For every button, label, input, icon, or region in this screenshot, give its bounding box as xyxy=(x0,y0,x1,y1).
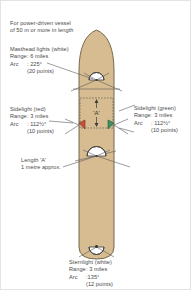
sidelight-red-ray-upper xyxy=(65,119,79,125)
sidelight-green-range-key: Range xyxy=(134,112,151,119)
sternlight-arc-row: Arc:135° xyxy=(69,274,113,281)
vessel-illustration: 'A' xyxy=(1,1,191,290)
sidelight-green-name: Sidelight (green) xyxy=(134,105,178,112)
masthead-lights-label: Masthead lights (white) Range: 6 miles A… xyxy=(10,46,69,75)
masthead-range-key: Range xyxy=(10,53,27,60)
hull-shape xyxy=(79,30,114,259)
length-a-line-1: Length 'A' xyxy=(21,157,61,164)
sidelight-red-range-row: Range: 3 miles xyxy=(10,113,54,120)
figure-title-line-2: of 50 m or more in length xyxy=(10,27,73,34)
sternlight-range-value: : 3 miles xyxy=(86,266,107,272)
sidelight-red-ray-lower xyxy=(65,125,79,134)
sidelight-red-arc-row: Arc: 112½° xyxy=(10,121,54,128)
sternlight-range-key: Range xyxy=(69,266,86,273)
masthead-arc-value: : 225° xyxy=(27,61,42,67)
masthead-aft-lamp-dot xyxy=(95,155,97,157)
masthead-arc-row: Arc: 225° xyxy=(10,61,69,68)
length-a-line-2: 1 metre approx. xyxy=(21,164,61,171)
length-a-text-label: Length 'A' 1 metre approx. xyxy=(21,157,61,172)
sidelight-red-points: (10 points) xyxy=(10,128,54,135)
masthead-range-value: : 6 miles xyxy=(27,53,48,59)
navigation-lights-diagram: 'A' xyxy=(0,0,191,290)
sidelight-green-leader-line xyxy=(119,105,135,111)
sidelight-red-arc-key: Arc xyxy=(10,121,27,128)
masthead-forward-lamp-dot xyxy=(95,79,97,81)
sidelight-green-range-row: Range: 3 miles xyxy=(134,112,178,119)
sternlight-arc-key: Arc xyxy=(69,274,86,281)
figure-title: For power-driven vessel of 50 m or more … xyxy=(10,20,73,35)
sternlight-name: Sternlight (white) xyxy=(69,259,113,266)
sternlight-range-row: Range: 3 miles xyxy=(69,266,113,273)
masthead-points: (20 points) xyxy=(10,68,69,75)
sternlight-arc-value: :135° xyxy=(86,274,99,280)
sidelight-green-label: Sidelight (green) Range: 3 miles Arc: 11… xyxy=(134,105,178,134)
sternlight-points: (12 points) xyxy=(69,281,113,288)
sidelight-green-ray-lower xyxy=(114,125,128,134)
sidelight-green-ray-upper xyxy=(114,119,128,125)
length-a-label: 'A' xyxy=(93,110,99,116)
sidelight-green-arc-key: Arc xyxy=(134,120,151,127)
sidelight-red-range-key: Range xyxy=(10,113,27,120)
sidelight-green-points: (10 points) xyxy=(134,127,178,134)
sidelight-green-range-value: : 3 miles xyxy=(151,112,172,118)
sidelight-red-name: Sidelight (red) xyxy=(10,106,54,113)
sidelight-green-arc-row: Arc: 112½° xyxy=(134,120,178,127)
sternlight-label: Sternlight (white) Range: 3 miles Arc:13… xyxy=(69,259,113,288)
masthead-range-row: Range: 6 miles xyxy=(10,53,69,60)
sidelight-red-arc-value: : 112½° xyxy=(27,121,46,127)
masthead-name: Masthead lights (white) xyxy=(10,46,69,53)
sidelight-red-range-value: : 3 miles xyxy=(27,113,48,119)
masthead-arc-key: Arc xyxy=(10,61,27,68)
sidelight-red-label: Sidelight (red) Range: 3 miles Arc: 112½… xyxy=(10,106,54,135)
sidelight-green-arc-value: : 112½° xyxy=(151,120,170,126)
sternlight-lamp-dot xyxy=(95,245,98,248)
figure-title-line-1: For power-driven vessel xyxy=(10,20,73,27)
